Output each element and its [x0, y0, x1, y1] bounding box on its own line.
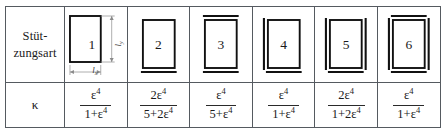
kappa-cell-2: 2ε4 5+2ε4 — [127, 83, 190, 128]
kappa-denominator-6: 1+ε4 — [393, 106, 424, 122]
kappa-fraction-1: ε4 1+ε4 — [80, 88, 111, 122]
row-header-support-type-line1: Stüt- — [6, 28, 64, 45]
table-row-diagrams: Stüt- zungsart — [6, 7, 441, 83]
plate-diagram-4: 4 — [253, 7, 315, 82]
kappa-denominator-4: 1+ε4 — [268, 106, 299, 122]
kappa-denominator-3: 5+ε4 — [206, 106, 237, 122]
plate-diagram-5: 5 — [315, 7, 377, 82]
support-case-cell-2: 2 — [127, 7, 190, 83]
support-case-cell-3: 3 — [190, 7, 253, 83]
support-case-cell-1: 1 lx ly — [65, 7, 128, 83]
support-type-table-container: Stüt- zungsart — [5, 6, 433, 125]
plate-diagram-1-svg — [65, 7, 127, 82]
kappa-numerator-3: ε4 — [206, 88, 237, 105]
kappa-cell-1: ε4 1+ε4 — [65, 83, 128, 128]
kappa-fraction-2: 2ε4 5+2ε4 — [140, 88, 177, 122]
kappa-numerator-1: ε4 — [80, 88, 111, 105]
support-case-cell-6: 6 — [377, 7, 440, 83]
kappa-numerator-4: ε4 — [268, 88, 299, 105]
row-header-support-type: Stüt- zungsart — [6, 7, 65, 83]
kappa-fraction-3: ε4 5+ε4 — [206, 88, 237, 122]
kappa-fraction-4: ε4 1+ε4 — [268, 88, 299, 122]
plate-diagram-4-svg — [253, 7, 315, 82]
support-case-cell-5: 5 — [315, 7, 378, 83]
plate-diagram-3-svg — [190, 7, 252, 82]
kappa-cell-4: ε4 1+ε4 — [252, 83, 315, 128]
kappa-numerator-5: 2ε4 — [328, 88, 365, 105]
plate-diagram-3: 3 — [190, 7, 252, 82]
kappa-fraction-5: 2ε4 1+2ε4 — [328, 88, 365, 122]
kappa-denominator-5: 1+2ε4 — [328, 106, 365, 122]
support-case-cell-4: 4 — [252, 7, 315, 83]
row-header-kappa: κ — [6, 83, 65, 128]
support-type-table: Stüt- zungsart — [5, 6, 441, 128]
kappa-cell-6: ε4 1+ε4 — [377, 83, 440, 128]
kappa-denominator-1: 1+ε4 — [80, 106, 111, 122]
plate-diagram-2-svg — [128, 7, 190, 82]
kappa-cell-5: 2ε4 1+2ε4 — [315, 83, 378, 128]
plate-diagram-5-svg — [315, 7, 377, 82]
row-header-support-type-line2: zungsart — [6, 45, 64, 62]
kappa-numerator-6: ε4 — [393, 88, 424, 105]
kappa-fraction-6: ε4 1+ε4 — [393, 88, 424, 122]
kappa-numerator-2: 2ε4 — [140, 88, 177, 105]
plate-diagram-6: 6 — [378, 7, 440, 82]
kappa-cell-3: ε4 5+ε4 — [190, 83, 253, 128]
plate-diagram-1: 1 lx ly — [65, 7, 127, 82]
plate-diagram-2: 2 — [128, 7, 190, 82]
kappa-denominator-2: 5+2ε4 — [140, 106, 177, 122]
table-row-kappa: κ ε4 1+ε4 2ε4 5+2ε4 ε4 5+ — [6, 83, 441, 128]
plate-diagram-6-svg — [378, 7, 440, 82]
